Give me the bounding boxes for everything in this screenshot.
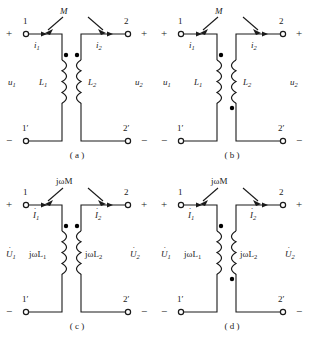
sign-top-right-a: + bbox=[141, 28, 147, 39]
sign-top-right-c: + bbox=[141, 199, 147, 210]
terminal-label-2prime-b: 2′ bbox=[278, 124, 284, 133]
terminal-2-d bbox=[280, 202, 285, 207]
mutual-impedance-label-d: jωM bbox=[211, 177, 227, 186]
polarity-dot-right-b bbox=[230, 106, 234, 110]
polarity-dot-left-a bbox=[64, 53, 68, 57]
sign-top-left-d: + bbox=[161, 199, 167, 210]
sign-bottom-right-a: − bbox=[141, 135, 147, 146]
polarity-dot-right-a bbox=[75, 53, 79, 57]
current-arrow-right-c bbox=[107, 203, 113, 208]
sign-top-left-a: + bbox=[6, 28, 12, 39]
coupled-inductor-figure: + + − − 1 2 1′ 2′ M i1 i2 u1 u2 L1 L2 ( … bbox=[0, 0, 309, 342]
terminal-1-b bbox=[178, 31, 183, 36]
current-arrow-right-a bbox=[107, 32, 113, 37]
sign-bottom-left-d: − bbox=[161, 306, 167, 317]
impedance-label-right-d: jωL2 bbox=[240, 250, 257, 259]
sign-top-right-b: + bbox=[296, 28, 302, 39]
polarity-dot-left-b bbox=[219, 53, 223, 57]
sign-bottom-left-a: − bbox=[6, 135, 12, 146]
terminal-1prime-a bbox=[23, 138, 28, 143]
circuit-panel-d: + + − − 1 2 1′ 2′ jωM ˙I1 ˙I2 ˙U1 ˙U2 jω… bbox=[155, 171, 309, 342]
panel-caption-b: ( b ) bbox=[155, 150, 309, 160]
voltage-label-right-b: u2 bbox=[290, 78, 298, 87]
sign-bottom-right-c: − bbox=[141, 306, 147, 317]
polarity-dot-right-d bbox=[230, 277, 234, 281]
current-label-right-b: i2 bbox=[251, 41, 257, 50]
terminal-label-1-b: 1 bbox=[178, 17, 183, 26]
impedance-label-left-d: jωL1 bbox=[184, 250, 201, 259]
current-label-left-b: i1 bbox=[189, 41, 195, 50]
terminal-label-2-d: 2 bbox=[279, 188, 284, 197]
panel-caption-c: ( c ) bbox=[0, 321, 154, 331]
terminal-label-1-a: 1 bbox=[23, 17, 28, 26]
voltage-phasor-label-right-d: ˙U2 bbox=[285, 250, 295, 259]
current-phasor-label-left-d: ˙I1 bbox=[188, 211, 194, 220]
inductor-label-left-b: L1 bbox=[194, 78, 202, 87]
current-label-left-a: i1 bbox=[34, 41, 40, 50]
voltage-label-right-a: u2 bbox=[135, 78, 143, 87]
voltage-phasor-label-right-c: ˙U2 bbox=[130, 250, 140, 259]
circuit-panel-b: + + − − 1 2 1′ 2′ M i1 i2 u1 u2 L1 L2 ( … bbox=[155, 0, 309, 171]
terminal-label-2-b: 2 bbox=[279, 17, 284, 26]
terminal-label-1prime-c: 1′ bbox=[22, 295, 28, 304]
polarity-dot-right-c bbox=[75, 224, 79, 228]
terminal-label-1-c: 1 bbox=[23, 188, 28, 197]
sign-top-left-b: + bbox=[161, 28, 167, 39]
terminal-2prime-a bbox=[125, 138, 130, 143]
voltage-label-left-a: u1 bbox=[8, 78, 16, 87]
sign-bottom-left-b: − bbox=[161, 135, 167, 146]
current-arrow-left-b bbox=[196, 32, 202, 37]
current-phasor-label-right-d: ˙I2 bbox=[250, 211, 256, 220]
voltage-phasor-label-left-c: ˙U1 bbox=[6, 250, 16, 259]
sign-top-right-d: + bbox=[296, 199, 302, 210]
inductor-label-right-a: L2 bbox=[88, 78, 96, 87]
terminal-label-2-a: 2 bbox=[124, 17, 129, 26]
terminal-label-1prime-a: 1′ bbox=[22, 124, 28, 133]
inductor-label-right-b: L2 bbox=[243, 78, 251, 87]
panel-caption-d: ( d ) bbox=[155, 321, 309, 331]
terminal-2-a bbox=[125, 31, 130, 36]
mutual-inductance-label-b: M bbox=[215, 7, 223, 16]
sign-top-left-c: + bbox=[6, 199, 12, 210]
sign-bottom-right-b: − bbox=[296, 135, 302, 146]
terminal-label-2prime-a: 2′ bbox=[123, 124, 129, 133]
current-label-right-a: i2 bbox=[96, 41, 102, 50]
mutual-inductance-label-a: M bbox=[60, 7, 68, 16]
terminal-1prime-c bbox=[23, 309, 28, 314]
current-arrow-left-a bbox=[41, 32, 47, 37]
current-arrow-left-d bbox=[196, 203, 202, 208]
sign-bottom-right-d: − bbox=[296, 306, 302, 317]
circuit-panel-a: + + − − 1 2 1′ 2′ M i1 i2 u1 u2 L1 L2 ( … bbox=[0, 0, 154, 171]
terminal-label-1prime-d: 1′ bbox=[177, 295, 183, 304]
terminal-1-a bbox=[23, 31, 28, 36]
voltage-label-left-b: u1 bbox=[163, 78, 171, 87]
current-arrow-left-c bbox=[41, 203, 47, 208]
terminal-1prime-b bbox=[178, 138, 183, 143]
terminal-label-2prime-d: 2′ bbox=[278, 295, 284, 304]
terminal-1-c bbox=[23, 202, 28, 207]
terminal-1-d bbox=[178, 202, 183, 207]
polarity-dot-left-d bbox=[219, 224, 223, 228]
polarity-dot-left-c bbox=[64, 224, 68, 228]
terminal-2prime-d bbox=[280, 309, 285, 314]
mutual-impedance-label-c: jωM bbox=[56, 177, 72, 186]
current-phasor-label-right-c: ˙I2 bbox=[95, 211, 101, 220]
current-arrow-right-d bbox=[262, 203, 268, 208]
impedance-label-left-c: jωL1 bbox=[29, 250, 46, 259]
terminal-2prime-b bbox=[280, 138, 285, 143]
terminal-label-1prime-b: 1′ bbox=[177, 124, 183, 133]
current-phasor-label-left-c: ˙I1 bbox=[33, 211, 39, 220]
terminal-2prime-c bbox=[125, 309, 130, 314]
panel-caption-a: ( a ) bbox=[0, 150, 154, 160]
terminal-2-b bbox=[280, 31, 285, 36]
circuit-panel-c: + + − − 1 2 1′ 2′ jωM ˙I1 ˙I2 ˙U1 ˙U2 jω… bbox=[0, 171, 154, 342]
current-arrow-right-b bbox=[262, 32, 268, 37]
terminal-label-2prime-c: 2′ bbox=[123, 295, 129, 304]
impedance-label-right-c: jωL2 bbox=[85, 250, 102, 259]
sign-bottom-left-c: − bbox=[6, 306, 12, 317]
terminal-label-2-c: 2 bbox=[124, 188, 129, 197]
terminal-2-c bbox=[125, 202, 130, 207]
voltage-phasor-label-left-d: ˙U1 bbox=[161, 250, 171, 259]
terminal-1prime-d bbox=[178, 309, 183, 314]
terminal-label-1-d: 1 bbox=[178, 188, 183, 197]
